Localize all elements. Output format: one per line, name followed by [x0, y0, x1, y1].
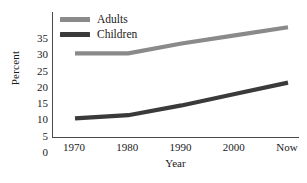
y-tick-label: 25: [26, 65, 48, 76]
y-axis-title: Percent: [9, 33, 21, 103]
x-axis-tick-labels: 1970198019902000Now: [52, 141, 299, 155]
x-tick-label: 1970: [63, 141, 85, 153]
y-tick-label: 5: [26, 130, 48, 141]
legend-label: Adults: [97, 14, 128, 25]
legend-swatch-icon: [60, 17, 90, 22]
y-tick-label: 15: [26, 98, 48, 109]
y-tick-label: 35: [26, 33, 48, 44]
legend-swatch-icon: [60, 32, 90, 37]
series-line-children: [75, 83, 288, 119]
line-chart: Percent 05101520253035 AdultsChildren 19…: [0, 0, 307, 183]
x-tick-label: 2000: [223, 141, 245, 153]
chart-legend: AdultsChildren: [60, 14, 137, 40]
y-axis-tick-labels: 05101520253035: [26, 26, 48, 138]
x-axis-title: Year: [52, 157, 299, 169]
x-tick-label: Now: [276, 141, 297, 153]
y-tick-label: 10: [26, 114, 48, 125]
x-tick-label: 1990: [170, 141, 192, 153]
y-tick-label: 30: [26, 49, 48, 60]
legend-label: Children: [97, 29, 137, 40]
legend-item: Adults: [60, 14, 137, 25]
y-tick-label: 20: [26, 81, 48, 92]
x-tick-label: 1980: [116, 141, 138, 153]
y-tick-label: 0: [26, 147, 48, 158]
legend-item: Children: [60, 29, 137, 40]
